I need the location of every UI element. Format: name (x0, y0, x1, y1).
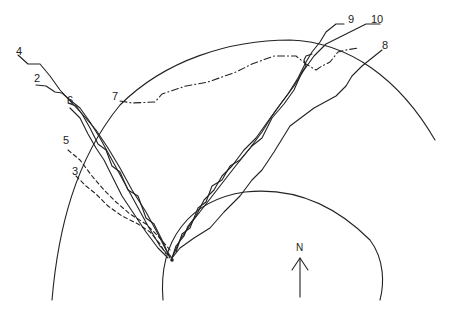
label-track-10: 10 (371, 14, 383, 25)
release-point (170, 258, 174, 262)
label-track-9: 9 (348, 14, 354, 25)
track-6 (68, 103, 170, 258)
track-10 (172, 24, 380, 258)
track-7 (120, 48, 358, 103)
label-track-4: 4 (16, 46, 22, 57)
track-2 (36, 85, 170, 257)
label-track-8: 8 (382, 40, 388, 51)
track-3 (76, 176, 166, 254)
track-8 (172, 50, 382, 258)
inner-circle-arc (162, 191, 382, 300)
track-9b (176, 54, 312, 252)
track-5 (68, 150, 170, 250)
label-track-3: 3 (72, 166, 78, 177)
label-track-7: 7 (112, 91, 118, 102)
north-label: N (296, 243, 303, 253)
label-track-2: 2 (34, 73, 40, 84)
label-track-5: 5 (63, 135, 69, 146)
label-track-6: 6 (67, 95, 73, 106)
